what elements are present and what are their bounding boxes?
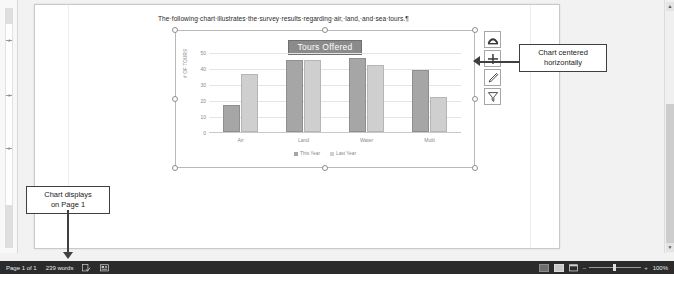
selection-handle-bottom-right[interactable] [472, 165, 478, 171]
zoom-in-button[interactable]: + [644, 265, 648, 271]
chart-side-buttons [484, 31, 501, 105]
chart-elements-button[interactable] [484, 50, 501, 67]
bar[interactable] [412, 70, 429, 132]
plus-icon [487, 53, 499, 65]
zoom-out-button[interactable]: – [583, 265, 586, 271]
status-bar-right: – + 100% [539, 264, 674, 272]
callout-left-arrow [63, 252, 73, 259]
selection-handle-top-left[interactable] [172, 27, 178, 33]
chart-object[interactable]: Tours Offered # OF TOURS 50 40 30 20 10 … [175, 30, 475, 168]
vertical-scrollbar[interactable]: ▲ ▼ [664, 0, 674, 253]
selection-handle-bottom-left[interactable] [172, 165, 178, 171]
vertical-ruler-bottom-margin [5, 205, 13, 248]
bar-group[interactable] [412, 53, 447, 132]
legend-swatch [330, 152, 334, 156]
layout-options-button[interactable] [484, 31, 501, 48]
ruler-number: 3 [4, 93, 14, 98]
bar[interactable] [304, 60, 321, 132]
vertical-ruler[interactable]: 4 3 2 [0, 0, 18, 253]
accessibility-icon[interactable] [100, 264, 109, 272]
bar[interactable] [223, 105, 240, 132]
vertical-ruler-top-margin [5, 8, 13, 24]
legend-item[interactable]: Last Year [330, 151, 356, 156]
callout-right-leader [478, 61, 520, 63]
status-bar: Page 1 of 1 239 words [0, 261, 674, 274]
bar-group[interactable] [223, 53, 258, 132]
x-axis-tick: Water [347, 137, 387, 143]
y-axis-tick: 30 [200, 83, 206, 88]
bar-group[interactable] [349, 53, 384, 132]
bottom-strip [0, 274, 674, 288]
brush-icon [487, 72, 499, 84]
status-bar-left: Page 1 of 1 239 words [0, 264, 109, 272]
chart-filters-button[interactable] [484, 88, 501, 105]
scrollbar-thumb[interactable] [666, 104, 674, 246]
bar-groups [209, 53, 461, 132]
y-axis-tick: 50 [200, 51, 206, 56]
selection-handle-middle-left[interactable] [172, 96, 178, 102]
x-axis-tick: Land [284, 137, 324, 143]
proofing-icon[interactable] [82, 264, 91, 272]
funnel-icon [487, 91, 499, 103]
read-mode-icon[interactable] [539, 264, 549, 272]
legend-label: This Year [300, 151, 320, 156]
chart-plot-area[interactable]: 50 40 30 20 10 0 [209, 53, 461, 133]
x-axis-labels: AirLandWaterMulti [209, 137, 461, 143]
y-axis-tick: 40 [200, 67, 206, 72]
bar[interactable] [367, 65, 384, 132]
page-indicator[interactable]: Page 1 of 1 [6, 265, 37, 271]
zoom-slider[interactable]: – + [583, 265, 648, 271]
word-document-window: 4 3 2 The·following·chart·illustrates·th… [0, 0, 674, 288]
web-layout-icon[interactable] [569, 264, 578, 272]
y-axis-tick: 20 [200, 99, 206, 104]
legend-swatch [294, 152, 298, 156]
y-axis-tick: 10 [200, 115, 206, 120]
bar[interactable] [349, 58, 366, 132]
bar[interactable] [430, 97, 447, 132]
callout-left-leader [67, 210, 69, 255]
bar[interactable] [241, 74, 258, 132]
chart-styles-button[interactable] [484, 69, 501, 86]
ruler-number: 2 [4, 146, 14, 151]
layout-options-icon [487, 34, 499, 45]
selection-handle-top-center[interactable] [322, 27, 328, 33]
y-axis-title[interactable]: # OF TOURS [183, 49, 188, 78]
right-margin-guide [530, 5, 531, 248]
print-layout-icon[interactable] [554, 264, 564, 272]
y-axis-tick: 0 [203, 131, 206, 136]
bar[interactable] [286, 60, 303, 132]
scroll-down-icon[interactable]: ▼ [666, 243, 674, 252]
selection-handle-middle-right[interactable] [472, 96, 478, 102]
bar-group[interactable] [286, 53, 321, 132]
x-axis-line [209, 132, 461, 133]
chart-legend[interactable]: This YearLast Year [175, 151, 475, 156]
body-paragraph[interactable]: The·following·chart·illustrates·the·surv… [158, 14, 578, 24]
ruler-number: 4 [4, 38, 14, 43]
selection-handle-bottom-center[interactable] [322, 165, 328, 171]
zoom-level[interactable]: 100% [653, 265, 668, 271]
zoom-thumb[interactable] [613, 264, 616, 271]
zoom-track[interactable] [589, 267, 641, 268]
scroll-up-icon[interactable]: ▲ [666, 2, 674, 11]
callout-chart-centered: Chart centered horizontally [519, 44, 607, 72]
x-axis-tick: Air [221, 137, 261, 143]
x-axis-tick: Multi [410, 137, 450, 143]
selection-handle-top-right[interactable] [472, 27, 478, 33]
legend-item[interactable]: This Year [294, 151, 320, 156]
word-count[interactable]: 239 words [46, 265, 74, 271]
legend-label: Last Year [336, 151, 356, 156]
